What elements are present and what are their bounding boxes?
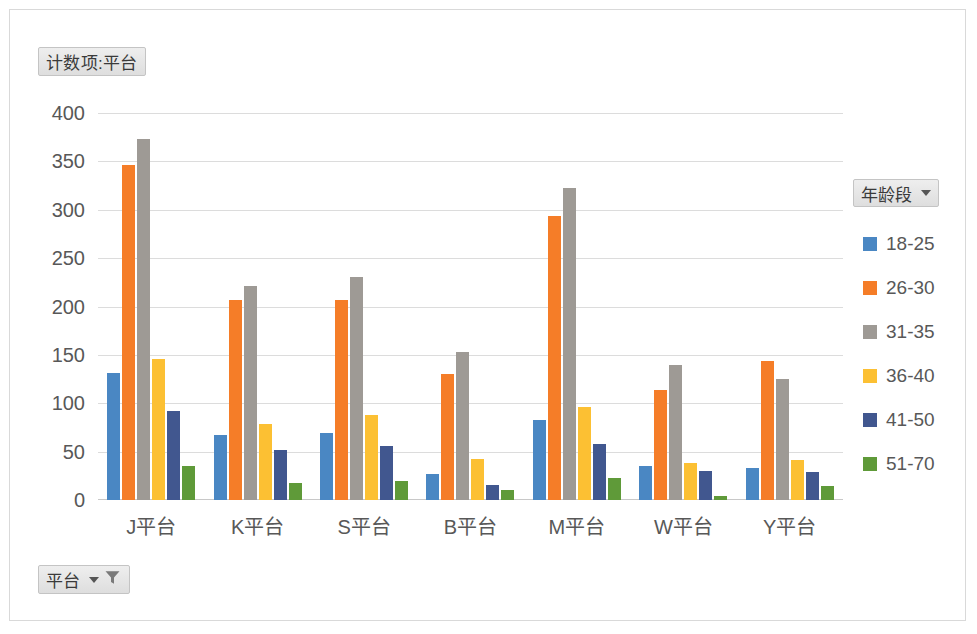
legend-swatch-icon <box>863 237 877 251</box>
legend-item-label: 26-30 <box>886 277 935 299</box>
x-axis-category-label: J平台 <box>126 511 176 540</box>
legend-item-31-35[interactable]: 31-35 <box>863 310 935 354</box>
bar-41-50-J平台[interactable] <box>167 411 180 500</box>
bar-36-40-M平台[interactable] <box>578 407 591 500</box>
bar-18-25-M平台[interactable] <box>533 420 546 500</box>
x-axis-category-label: B平台 <box>444 511 497 540</box>
y-axis-tick-label: 100 <box>52 392 85 415</box>
y-axis-tick-label: 250 <box>52 247 85 270</box>
legend-item-41-50[interactable]: 41-50 <box>863 398 935 442</box>
legend-item-label: 18-25 <box>886 233 935 255</box>
bar-36-40-W平台[interactable] <box>684 463 697 500</box>
legend-item-label: 31-35 <box>886 321 935 343</box>
bar-26-30-B平台[interactable] <box>441 374 454 500</box>
bar-51-70-W平台[interactable] <box>714 496 727 500</box>
legend-item-label: 51-70 <box>886 453 935 475</box>
bar-26-30-J平台[interactable] <box>122 165 135 500</box>
legend-item-label: 41-50 <box>886 409 935 431</box>
pivot-legend-field-label: 年龄段 <box>861 181 912 206</box>
bar-26-30-Y平台[interactable] <box>761 361 774 500</box>
chevron-down-icon[interactable] <box>89 577 99 583</box>
x-axis-category-label: K平台 <box>231 511 284 540</box>
bar-18-25-S平台[interactable] <box>320 433 333 500</box>
bar-group: S平台 <box>311 113 417 500</box>
bar-group: W平台 <box>630 113 736 500</box>
pivot-chart-frame: 计数项:平台 年龄段 平台 400350300250200150100500J平… <box>9 9 966 621</box>
bar-51-70-S平台[interactable] <box>395 481 408 500</box>
bar-26-30-W平台[interactable] <box>654 390 667 500</box>
legend-item-51-70[interactable]: 51-70 <box>863 442 935 486</box>
y-axis-tick-label: 150 <box>52 343 85 366</box>
x-axis-category-label: W平台 <box>654 511 713 540</box>
bar-36-40-B平台[interactable] <box>471 459 484 500</box>
y-axis-tick-label: 0 <box>74 489 85 512</box>
bar-group: J平台 <box>98 113 204 500</box>
bar-group: M平台 <box>524 113 630 500</box>
bar-51-70-J平台[interactable] <box>182 466 195 500</box>
plot-area: 400350300250200150100500J平台K平台S平台B平台M平台W… <box>98 113 843 500</box>
bar-36-40-Y平台[interactable] <box>791 460 804 500</box>
legend-item-18-25[interactable]: 18-25 <box>863 222 935 266</box>
bar-51-70-Y平台[interactable] <box>821 486 834 501</box>
bar-31-35-B平台[interactable] <box>456 352 469 500</box>
y-axis-tick-label: 200 <box>52 295 85 318</box>
y-axis-tick-label: 350 <box>52 150 85 173</box>
pivot-value-field-label: 计数项:平台 <box>46 49 138 74</box>
legend-swatch-icon <box>863 325 877 339</box>
pivot-value-field-button[interactable]: 计数项:平台 <box>38 47 146 76</box>
legend-swatch-icon <box>863 281 877 295</box>
bar-41-50-B平台[interactable] <box>486 485 499 500</box>
bar-51-70-B平台[interactable] <box>501 490 514 500</box>
bar-31-35-W平台[interactable] <box>669 365 682 500</box>
bar-18-25-B平台[interactable] <box>426 474 439 500</box>
x-axis-category-label: Y平台 <box>763 511 816 540</box>
bar-41-50-S平台[interactable] <box>380 446 393 500</box>
legend-swatch-icon <box>863 369 877 383</box>
bar-51-70-K平台[interactable] <box>289 483 302 500</box>
x-axis-category-label: M平台 <box>549 511 606 540</box>
bar-31-35-K平台[interactable] <box>244 286 257 500</box>
y-axis-tick-label: 400 <box>52 102 85 125</box>
legend-item-label: 36-40 <box>886 365 935 387</box>
pivot-legend-field-button[interactable]: 年龄段 <box>853 179 939 207</box>
pivot-axis-field-label: 平台 <box>46 567 80 592</box>
bar-36-40-J平台[interactable] <box>152 359 165 500</box>
pivot-axis-field-button[interactable]: 平台 <box>38 565 130 594</box>
bar-18-25-J平台[interactable] <box>107 373 120 500</box>
bar-group: K平台 <box>204 113 310 500</box>
bar-31-35-Y平台[interactable] <box>776 379 789 500</box>
filter-funnel-icon[interactable] <box>103 568 122 592</box>
x-axis-category-label: S平台 <box>337 511 390 540</box>
bar-group: B平台 <box>417 113 523 500</box>
y-axis-tick-label: 50 <box>63 440 85 463</box>
legend-item-26-30[interactable]: 26-30 <box>863 266 935 310</box>
bar-41-50-K平台[interactable] <box>274 450 287 500</box>
bar-18-25-W平台[interactable] <box>639 466 652 500</box>
bar-41-50-Y平台[interactable] <box>806 472 819 500</box>
bar-41-50-W平台[interactable] <box>699 471 712 500</box>
y-axis-tick-label: 300 <box>52 198 85 221</box>
bar-18-25-Y平台[interactable] <box>746 468 759 500</box>
bar-51-70-M平台[interactable] <box>608 478 621 500</box>
bar-36-40-S平台[interactable] <box>365 415 378 500</box>
legend-swatch-icon <box>863 457 877 471</box>
bar-31-35-M平台[interactable] <box>563 188 576 501</box>
chevron-down-icon[interactable] <box>921 190 931 196</box>
legend-item-36-40[interactable]: 36-40 <box>863 354 935 398</box>
bar-41-50-M平台[interactable] <box>593 444 606 500</box>
legend-swatch-icon <box>863 413 877 427</box>
chart-legend: 18-2526-3031-3536-4041-5051-70 <box>863 222 935 486</box>
bar-26-30-S平台[interactable] <box>335 300 348 500</box>
bar-26-30-K平台[interactable] <box>229 300 242 500</box>
bar-18-25-K平台[interactable] <box>214 435 227 500</box>
bar-31-35-S平台[interactable] <box>350 277 363 500</box>
bar-31-35-J平台[interactable] <box>137 139 150 500</box>
bar-36-40-K平台[interactable] <box>259 424 272 500</box>
bar-26-30-M平台[interactable] <box>548 216 561 500</box>
bar-group: Y平台 <box>737 113 843 500</box>
